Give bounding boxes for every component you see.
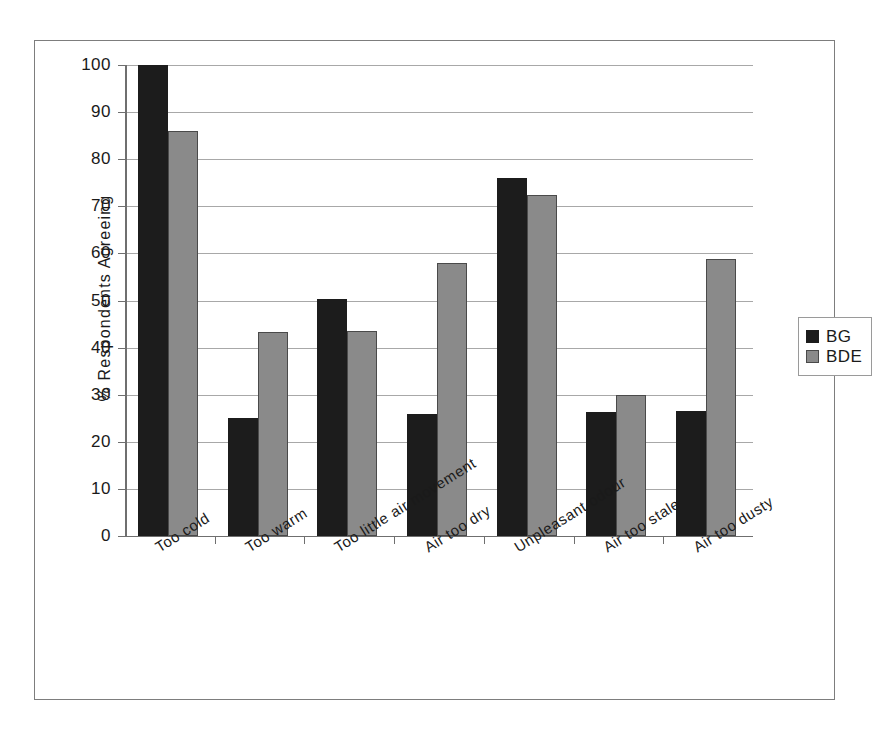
y-tick-label-0: 0 (101, 526, 111, 546)
bar-bg (228, 418, 258, 536)
y-tick-20 (118, 442, 125, 443)
y-tick-label-100: 100 (81, 55, 111, 75)
y-tick-label-70: 70 (91, 196, 111, 216)
bar-bde (706, 259, 736, 536)
legend-item-bg: BG (806, 328, 862, 345)
y-tick-label-40: 40 (91, 338, 111, 358)
bar-bg (317, 299, 347, 536)
bar-group (125, 65, 215, 536)
bar-bde (437, 263, 467, 536)
chart-frame: % Respondents Agreeing 01020304050607080… (34, 40, 835, 700)
y-tick-label-50: 50 (91, 291, 111, 311)
bar-bde (168, 131, 198, 536)
y-tick-70 (118, 206, 125, 207)
y-tick-10 (118, 489, 125, 490)
bar-group (574, 65, 664, 536)
bar-bde (258, 332, 288, 536)
y-tick-label-80: 80 (91, 149, 111, 169)
bar-bg (138, 65, 168, 536)
legend-label-bg: BG (826, 328, 852, 345)
bar-bg (407, 414, 437, 536)
bars-layer (125, 65, 753, 536)
y-tick-100 (118, 65, 125, 66)
legend-swatch-bde (806, 350, 819, 363)
bar-bde (527, 195, 557, 536)
bar-bde (347, 331, 377, 536)
y-tick-label-90: 90 (91, 102, 111, 122)
bar-bg (676, 411, 706, 536)
y-tick-label-20: 20 (91, 432, 111, 452)
y-tick-label-60: 60 (91, 243, 111, 263)
y-tick-40 (118, 348, 125, 349)
y-tick-80 (118, 159, 125, 160)
bar-group (304, 65, 394, 536)
legend-swatch-bg (806, 330, 819, 343)
legend-item-bde: BDE (806, 348, 862, 365)
y-tick-label-10: 10 (91, 479, 111, 499)
y-tick-50 (118, 301, 125, 302)
y-tick-label-30: 30 (91, 385, 111, 405)
plot-area: 0102030405060708090100 (125, 65, 753, 536)
legend-label-bde: BDE (826, 348, 862, 365)
bar-bg (497, 178, 527, 536)
bar-group (215, 65, 305, 536)
y-tick-60 (118, 253, 125, 254)
chart-legend: BGBDE (798, 317, 872, 376)
x-axis-category-labels: Too coldToo warmToo little air movementA… (125, 541, 825, 701)
y-tick-90 (118, 112, 125, 113)
y-tick-0 (118, 536, 125, 537)
bar-group (663, 65, 753, 536)
bar-bg (586, 412, 616, 536)
bar-group (484, 65, 574, 536)
y-tick-30 (118, 395, 125, 396)
